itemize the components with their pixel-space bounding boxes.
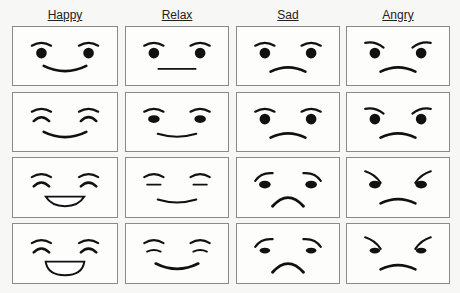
- eye-icon: [194, 115, 206, 123]
- eyebrow-icon: [79, 174, 98, 177]
- eyebrow-icon: [32, 174, 51, 177]
- mouth-icon: [273, 198, 304, 207]
- eye-icon: [370, 114, 381, 125]
- eyebrow-icon: [32, 109, 51, 112]
- face-cell-happy-2: [12, 92, 118, 152]
- face-cell-happy-3: [12, 157, 118, 218]
- face-cell-angry-1: [346, 26, 450, 86]
- face-relax: [144, 240, 210, 269]
- face-cell-angry-4: [346, 223, 450, 284]
- face-sad: [255, 109, 321, 138]
- eyebrow-icon: [255, 43, 274, 46]
- face-cell-sad-2: [236, 92, 340, 152]
- mouth-icon: [381, 67, 416, 71]
- face-relax: [144, 109, 210, 137]
- face-drawing: [126, 27, 228, 85]
- face-drawing: [237, 27, 339, 85]
- eye-icon: [195, 48, 206, 59]
- face-relax: [144, 174, 210, 202]
- face-cell-angry-3: [346, 157, 450, 218]
- mouth-icon: [271, 133, 306, 137]
- eye-icon: [370, 248, 381, 254]
- eye-icon: [416, 248, 427, 254]
- eyebrow-icon: [190, 174, 209, 177]
- mouth-icon: [46, 197, 85, 207]
- face-drawing: [13, 224, 117, 283]
- face-angry: [365, 108, 431, 137]
- eye-icon: [83, 48, 94, 59]
- eyebrow-icon: [415, 237, 430, 249]
- eye-icon: [260, 114, 271, 125]
- face-angry: [365, 171, 431, 203]
- eyebrow-icon: [79, 109, 98, 112]
- eyebrow-icon: [412, 108, 430, 113]
- eyebrow-icon: [412, 42, 430, 47]
- mouth-icon: [158, 200, 197, 203]
- eye-icon: [260, 48, 271, 59]
- eyebrow-icon: [190, 109, 209, 112]
- eyebrow-icon: [365, 108, 383, 113]
- mouth-icon: [381, 133, 416, 137]
- eyebrow-icon: [144, 174, 163, 177]
- face-angry: [365, 42, 431, 71]
- mouth-icon: [46, 262, 85, 276]
- eyebrow-icon: [303, 173, 320, 181]
- face-cell-angry-2: [346, 92, 450, 152]
- face-drawing: [13, 27, 117, 85]
- face-happy: [32, 43, 98, 71]
- closed-eye-icon: [34, 249, 49, 253]
- face-drawing: [347, 27, 449, 85]
- eyebrow-icon: [255, 173, 272, 181]
- eyebrow-icon: [301, 109, 320, 112]
- face-happy: [32, 174, 99, 206]
- eye-icon: [306, 248, 317, 254]
- eye-icon: [415, 181, 427, 189]
- mouth-icon: [271, 67, 306, 71]
- face-cell-happy-4: [12, 223, 118, 284]
- eyebrow-icon: [365, 42, 383, 47]
- closed-eye-icon: [81, 117, 96, 121]
- closed-eye-icon: [34, 183, 49, 187]
- eyebrow-icon: [255, 239, 272, 247]
- mouth-icon: [156, 264, 199, 269]
- face-cell-relax-1: [125, 26, 229, 86]
- eye-icon: [36, 48, 47, 59]
- face-drawing: [237, 158, 339, 217]
- face-drawing: [13, 158, 117, 217]
- eye-icon: [369, 181, 381, 189]
- face-happy: [32, 240, 99, 275]
- eyebrow-icon: [365, 237, 380, 249]
- face-drawing: [126, 158, 228, 217]
- face-drawing: [347, 224, 449, 283]
- eye-icon: [259, 181, 271, 189]
- eyebrow-icon: [190, 43, 209, 46]
- mouth-icon: [381, 265, 416, 269]
- face-cell-happy-1: [12, 26, 118, 86]
- face-sad: [255, 239, 321, 272]
- eye-icon: [260, 248, 271, 254]
- eye-icon: [306, 114, 317, 125]
- face-drawing: [126, 224, 228, 283]
- eyebrow-icon: [303, 239, 320, 247]
- face-relax: [144, 43, 210, 69]
- mouth-icon: [273, 264, 304, 273]
- eye-icon: [148, 115, 160, 123]
- mouth-icon: [44, 66, 87, 71]
- eyebrow-icon: [190, 240, 209, 243]
- face-cell-sad-4: [236, 223, 340, 284]
- face-cell-relax-2: [125, 92, 229, 152]
- closed-eye-icon: [34, 117, 49, 121]
- eyebrow-icon: [144, 240, 163, 243]
- face-drawing: [237, 224, 339, 283]
- eyebrow-icon: [32, 240, 51, 243]
- mouth-icon: [44, 132, 87, 137]
- closed-eye-icon: [81, 183, 96, 187]
- column-header-relax: Relax: [124, 8, 230, 22]
- eye-icon: [305, 181, 317, 189]
- face-drawing: [126, 93, 228, 151]
- eyebrow-icon: [255, 109, 274, 112]
- face-sad: [255, 43, 321, 72]
- face-happy: [32, 109, 98, 137]
- eye-icon: [306, 48, 317, 59]
- closed-eye-icon: [193, 250, 207, 251]
